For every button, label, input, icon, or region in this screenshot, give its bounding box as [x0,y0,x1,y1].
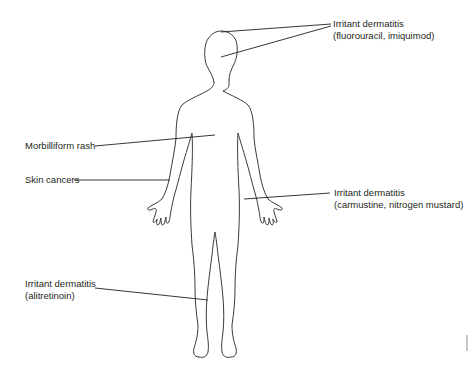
label-leg-line1: Irritant dermatitis [25,278,96,290]
label-arm-line1: Skin cancers [25,174,79,186]
leader-leg [95,288,208,300]
label-trunk: Morbilliform rash [25,140,95,152]
leader-right-hand [244,193,330,199]
page-edge-mark [466,335,468,351]
label-head-line1: Irritant dermatitis [333,18,434,30]
label-head: Irritant dermatitis (fluorouracil, imiqu… [333,18,434,42]
label-head-line2: (fluorouracil, imiquimod) [333,30,434,42]
label-trunk-line1: Morbilliform rash [25,140,95,152]
label-leg-line2: (alitretinoin) [25,290,96,302]
label-right-hand-line1: Irritant dermatitis [334,187,463,199]
leader-trunk [95,135,215,146]
head-outline [205,31,238,82]
body-outline [148,80,283,357]
label-leg: Irritant dermatitis (alitretinoin) [25,278,96,302]
leader-lines [74,24,331,300]
label-right-hand-line2: (carmustine, nitrogen mustard) [334,199,463,211]
label-right-hand: Irritant dermatitis (carmustine, nitroge… [334,187,463,211]
diagram-canvas: Irritant dermatitis (fluorouracil, imiqu… [0,0,471,369]
label-arm: Skin cancers [25,174,79,186]
